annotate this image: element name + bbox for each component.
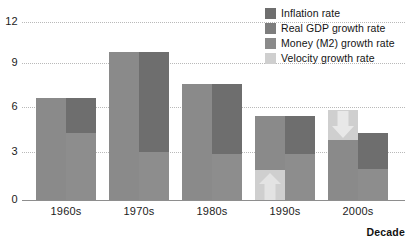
bar-2000s-money-velocity[interactable] [328, 110, 358, 200]
segment-inflation-1960s [66, 98, 96, 133]
segment-money-1960s [36, 98, 66, 200]
bar-2000s-inflation-gdp[interactable] [358, 133, 388, 200]
bar-group-1980s [182, 0, 242, 200]
segment-money-1990s [255, 116, 285, 170]
bar-1990s-money-velocity[interactable] [255, 116, 285, 200]
segment-real-gdp-1960s [66, 133, 96, 200]
arrow-up-icon [255, 170, 285, 200]
segment-real-gdp-1970s [139, 152, 169, 200]
segment-inflation-1980s [212, 84, 242, 154]
segment-inflation-2000s [358, 133, 388, 169]
segment-real-gdp-2000s [358, 169, 388, 200]
gridline-0-axis [22, 200, 405, 201]
bar-1980s-money[interactable] [182, 84, 212, 200]
segment-inflation-1990s [285, 116, 315, 154]
segment-real-gdp-1980s [212, 154, 242, 200]
segment-inflation-1970s [139, 52, 169, 152]
chart-container: 12 9 6 3 0 [0, 0, 409, 245]
legend-swatch-icon-real-gdp [265, 23, 276, 34]
x-label-1980s: 1980s [182, 205, 242, 217]
velocity-up-arrow-icon-1990s [255, 170, 285, 200]
segment-money-1980s [182, 84, 212, 200]
legend-item-real-gdp-growth-rate[interactable]: Real GDP growth rate [265, 21, 395, 35]
legend-item-money-m2-growth-rate[interactable]: Money (M2) growth rate [265, 36, 395, 50]
chart-legend: Inflation rate Real GDP growth rate Mone… [265, 6, 395, 66]
velocity-down-arrow-icon-2000s [328, 110, 358, 140]
segment-real-gdp-1990s [285, 154, 315, 200]
legend-swatch-icon-inflation [265, 8, 276, 19]
x-axis-title: Decade [366, 226, 405, 238]
segment-money-1970s [109, 52, 139, 200]
y-tick-label-9: 9 [2, 57, 18, 68]
legend-label-inflation: Inflation rate [281, 8, 340, 19]
x-label-2000s: 2000s [328, 205, 388, 217]
y-tick-label-12: 12 [2, 16, 18, 27]
bar-1960s-money[interactable] [36, 98, 66, 200]
legend-item-inflation-rate[interactable]: Inflation rate [265, 6, 395, 20]
bar-1970s-money[interactable] [109, 52, 139, 200]
legend-label-money: Money (M2) growth rate [281, 38, 395, 49]
y-tick-label-6: 6 [2, 101, 18, 112]
y-tick-label-3: 3 [2, 146, 18, 157]
bar-1960s-inflation-gdp[interactable] [66, 98, 96, 200]
y-tick-label-0: 0 [2, 194, 18, 205]
bar-group-1970s [109, 0, 169, 200]
x-label-1990s: 1990s [255, 205, 315, 217]
legend-label-real-gdp: Real GDP growth rate [281, 23, 386, 34]
x-label-1960s: 1960s [36, 205, 96, 217]
legend-label-velocity: Velocity growth rate [281, 53, 375, 64]
bar-group-1960s [36, 0, 96, 200]
arrow-down-icon [328, 110, 358, 140]
legend-item-velocity-growth-rate[interactable]: Velocity growth rate [265, 51, 395, 65]
bar-1990s-inflation-gdp[interactable] [285, 116, 315, 200]
legend-swatch-icon-velocity [265, 53, 276, 64]
legend-swatch-icon-money [265, 38, 276, 49]
bar-1980s-inflation-gdp[interactable] [212, 84, 242, 200]
segment-money-2000s [328, 140, 358, 200]
x-label-1970s: 1970s [109, 205, 169, 217]
bar-1970s-inflation-gdp[interactable] [139, 52, 169, 200]
